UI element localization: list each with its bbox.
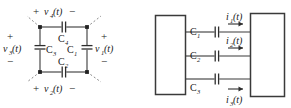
node-top-right (85, 25, 89, 29)
branch-2-current-arrow-head (239, 46, 244, 51)
dashed-stub-bottom-left (27, 72, 40, 82)
capacitor-c2-subscript: 2 (65, 62, 69, 69)
v4-argument: (t) (53, 6, 63, 18)
capacitor-c1-label: C (67, 44, 74, 55)
dashed-stub-bottom-right (87, 72, 101, 82)
current-i2-argument: (t) (233, 35, 243, 47)
capacitor-c1-subscript: 1 (74, 50, 77, 57)
v3-label: v (3, 43, 8, 54)
node-bottom-left (38, 70, 42, 74)
v4-label: v (44, 6, 49, 17)
v2-plus-sign: + (33, 82, 39, 94)
current-i3-argument: (t) (233, 94, 243, 106)
left-panel-group: + v 4 (t) − + v 2 (t) − + v 3 (t) − + v … (3, 5, 114, 96)
current-i1-argument: (t) (233, 11, 243, 23)
current-i2-label: i (226, 35, 229, 46)
v2-label: v (44, 83, 49, 94)
v1-minus-sign: − (101, 55, 107, 67)
node-bottom-right (85, 70, 89, 74)
capacitor-r1-label: C (190, 26, 197, 37)
capacitor-r1-subscript: 1 (197, 32, 200, 39)
capacitor-r2-label: C (190, 50, 197, 61)
current-i3-label: i (226, 94, 229, 105)
v1-plus-sign: + (101, 30, 107, 42)
v3-argument: (t) (12, 43, 22, 55)
capacitor-c3-subscript: 3 (52, 50, 57, 57)
figure-root: + v 4 (t) − + v 2 (t) − + v 3 (t) − + v … (0, 0, 291, 108)
branch-3-current-arrow-head (239, 87, 244, 92)
v2-argument: (t) (53, 83, 63, 95)
capacitor-r3-label: C (190, 82, 197, 93)
branch-1-current-arrow-head (239, 22, 244, 27)
v3-minus-sign: − (7, 55, 13, 67)
v1-label: v (95, 43, 100, 54)
capacitor-r3-subscript: 3 (196, 88, 201, 95)
right-network-block (251, 14, 285, 97)
circuit-figure-svg: + v 4 (t) − + v 2 (t) − + v 3 (t) − + v … (0, 0, 291, 108)
left-network-block (156, 16, 186, 95)
v4-minus-sign: − (69, 5, 75, 17)
v3-plus-sign: + (7, 30, 13, 42)
capacitor-c4-label: C (58, 33, 65, 44)
dashed-stub-top-right (87, 16, 101, 27)
current-i1-label: i (226, 11, 229, 22)
dashed-stub-top-left (27, 16, 40, 27)
capacitor-c3-label: C (46, 44, 53, 55)
right-panel-group: C 1 i 1 (t) C 2 i 2 (t) C 3 (156, 11, 285, 107)
v4-plus-sign: + (33, 5, 39, 17)
v2-minus-sign: − (69, 82, 75, 94)
node-top-left (38, 25, 42, 29)
v1-argument: (t) (104, 43, 114, 55)
capacitor-c2-label: C (58, 56, 65, 67)
